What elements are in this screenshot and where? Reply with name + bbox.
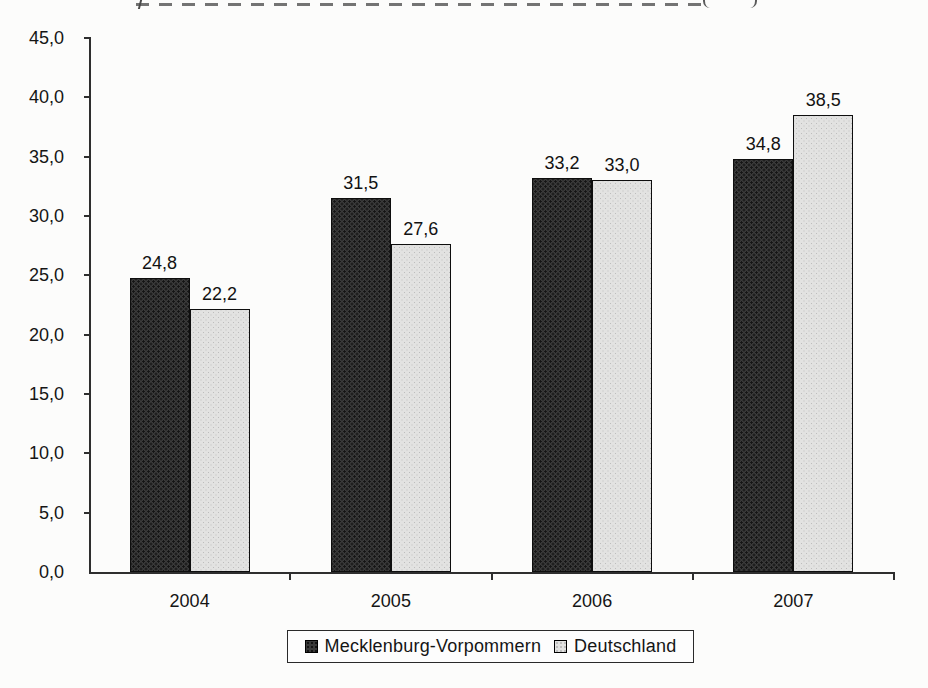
x-axis-tick (289, 574, 291, 580)
y-axis-tick (84, 512, 90, 514)
legend-label-deutschland: Deutschland (574, 636, 676, 657)
cropped-title-paren-right (749, 0, 757, 8)
bar-2007-deutschland (793, 115, 853, 572)
x-axis-category-label: 2007 (753, 591, 833, 611)
bar-2006-mecklenburg-vorpommern (532, 178, 592, 572)
y-axis-tick-label: 20,0 (12, 325, 64, 345)
x-axis-category-label: 2004 (150, 591, 230, 611)
x-axis-category-label: 2006 (552, 591, 632, 611)
y-axis-tick (84, 452, 90, 454)
bar-2006-deutschland (592, 180, 652, 572)
y-axis-tick-label: 0,0 (12, 562, 64, 582)
y-axis-tick (84, 156, 90, 158)
y-axis-tick (84, 37, 90, 39)
y-axis-tick-label: 40,0 (12, 87, 64, 107)
y-axis-tick (84, 274, 90, 276)
bar-value-label: 24,8 (130, 252, 190, 274)
x-axis-tick (692, 574, 694, 580)
y-axis-line (89, 37, 91, 573)
y-axis-tick-label: 30,0 (12, 206, 64, 226)
bar-value-label: 22,2 (190, 283, 250, 305)
bar-value-label: 33,2 (532, 152, 592, 174)
y-axis-tick (84, 96, 90, 98)
legend-label-mecklenburg-vorpommern: Mecklenburg-Vorpommern (325, 636, 542, 657)
bar-value-label: 38,5 (793, 89, 853, 111)
y-axis-tick (84, 215, 90, 217)
bar-value-label: 31,5 (331, 172, 391, 194)
bar-2004-mecklenburg-vorpommern (130, 278, 190, 572)
bar-2005-deutschland (391, 244, 451, 572)
bar-value-label: 34,8 (733, 133, 793, 155)
y-axis-tick-label: 15,0 (12, 384, 64, 404)
bar-2007-mecklenburg-vorpommern (733, 159, 793, 572)
y-axis-tick-label: 35,0 (12, 147, 64, 167)
bar-2005-mecklenburg-vorpommern (331, 198, 391, 572)
y-axis-tick-label: 5,0 (12, 503, 64, 523)
x-axis-tick (491, 574, 493, 580)
y-axis-tick (84, 393, 90, 395)
y-axis-tick-label: 10,0 (12, 443, 64, 463)
cropped-title-paren-left (703, 0, 711, 8)
bar-2004-deutschland (190, 309, 250, 572)
y-axis-tick-label: 45,0 (12, 28, 64, 48)
y-axis-tick (84, 334, 90, 336)
legend-swatch-deutschland-icon (554, 640, 567, 653)
cropped-title-fragment (136, 3, 711, 6)
x-axis-category-label: 2005 (351, 591, 431, 611)
bar-value-label: 33,0 (592, 154, 652, 176)
x-axis-tick (893, 574, 895, 580)
y-axis-tick-label: 25,0 (12, 265, 64, 285)
legend-swatch-mecklenburg-vorpommern-icon (305, 640, 318, 653)
bar-chart-figure: 0,05,010,015,020,025,030,035,040,045,020… (0, 0, 928, 688)
bar-value-label: 27,6 (391, 218, 451, 240)
legend: Mecklenburg-Vorpommern Deutschland (287, 630, 694, 663)
